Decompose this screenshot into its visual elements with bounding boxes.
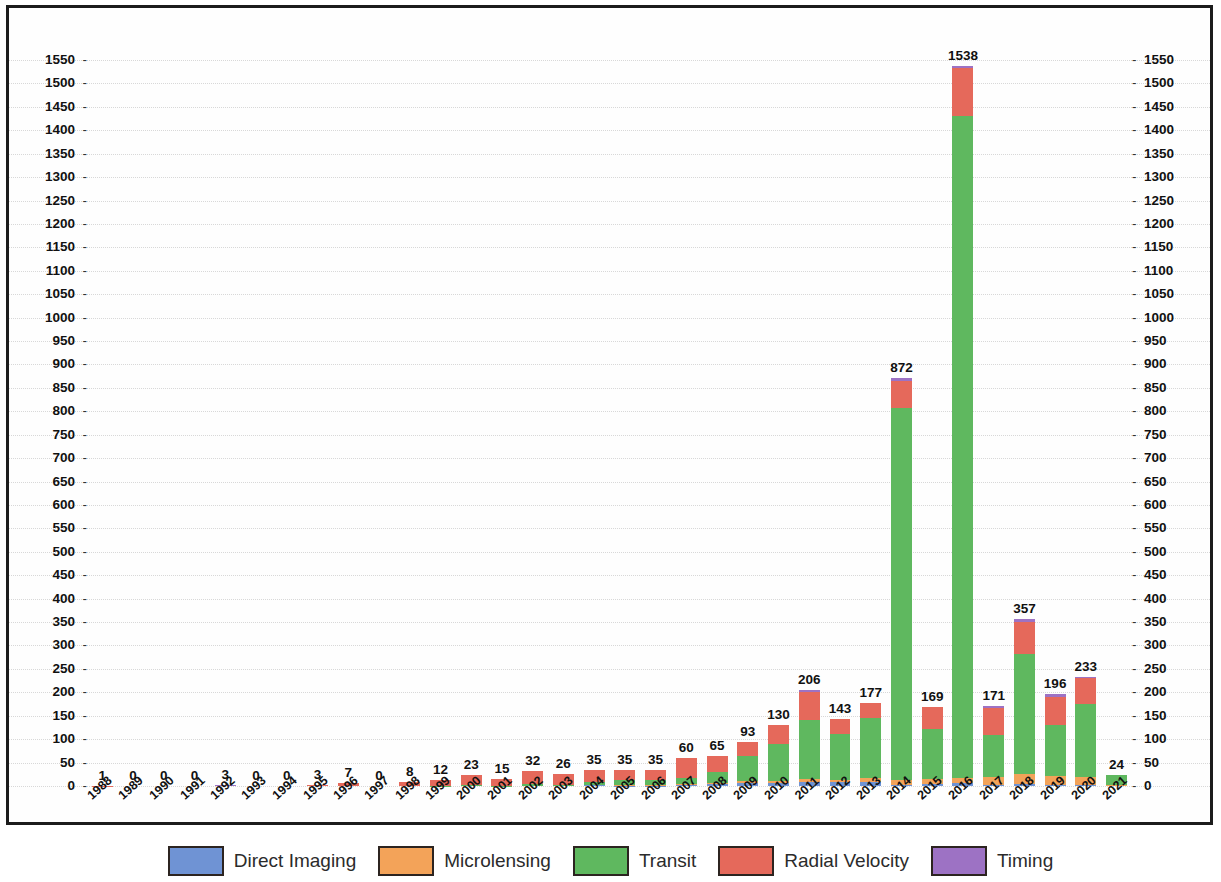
- y-axis-tick-label-right: 1100: [1144, 264, 1173, 278]
- bar-segment-radial-velocity: [1014, 622, 1035, 654]
- bar-stack[interactable]: [952, 66, 973, 786]
- bar-segment-radial-velocity: [922, 707, 943, 729]
- bar-stack[interactable]: [922, 707, 943, 786]
- bar-column[interactable]: 24: [1101, 46, 1132, 786]
- bar-segment-transit: [891, 408, 912, 780]
- bar-segment-transit: [830, 734, 851, 780]
- bar-column[interactable]: 177: [855, 46, 886, 786]
- bar-column[interactable]: 0: [271, 46, 302, 786]
- bar-column[interactable]: 143: [825, 46, 856, 786]
- y-axis-tick-label-right: 1350: [1144, 147, 1174, 161]
- x-axis-tick: 2018: [1009, 790, 1040, 836]
- y-axis-tick-label-left: 1500: [45, 76, 75, 90]
- bar-column[interactable]: 169: [917, 46, 948, 786]
- bar-stack[interactable]: [983, 706, 1004, 786]
- bar-segment-transit: [1014, 654, 1035, 774]
- x-axis-tick: 2017: [978, 790, 1009, 836]
- bar-column[interactable]: 35: [579, 46, 610, 786]
- bar-column[interactable]: 171: [978, 46, 1009, 786]
- y-axis-tick-mark-right: -: [1132, 100, 1137, 114]
- y-axis-tick-label-left: 400: [52, 592, 75, 606]
- y-axis-tick-label-left: 350: [52, 615, 75, 629]
- legend-item[interactable]: Microlensing: [378, 846, 551, 876]
- y-axis-tick-label-left: 1100: [46, 264, 75, 278]
- legend-label: Radial Velocity: [784, 850, 909, 872]
- legend-item[interactable]: Transit: [573, 846, 696, 876]
- y-axis-tick-label-right: 1500: [1144, 76, 1174, 90]
- bar-column[interactable]: 0: [148, 46, 179, 786]
- y-axis-tick-label-left: 700: [52, 451, 75, 465]
- bar-column[interactable]: 8: [394, 46, 425, 786]
- y-axis-tick-label-right: 1300: [1144, 170, 1174, 184]
- bar-column[interactable]: 35: [640, 46, 671, 786]
- y-axis-tick-label-left: 1200: [45, 217, 75, 231]
- bar-segment-transit: [983, 735, 1004, 778]
- bar-column[interactable]: 23: [456, 46, 487, 786]
- x-axis-tick: 2010: [763, 790, 794, 836]
- y-axis-right: 0-50-100-150-200-250-300-350-400-450-500…: [1144, 8, 1206, 822]
- bar-column[interactable]: 872: [886, 46, 917, 786]
- y-axis-tick-label-left: 850: [52, 381, 75, 395]
- y-axis-tick-mark-right: -: [1132, 264, 1137, 278]
- bar-column[interactable]: 60: [671, 46, 702, 786]
- bar-stack[interactable]: [860, 703, 881, 786]
- legend-label: Direct Imaging: [234, 850, 357, 872]
- y-axis-tick-mark-right: -: [1132, 428, 1137, 442]
- x-axis-tick: 1997: [364, 790, 395, 836]
- bar-stack[interactable]: [891, 378, 912, 786]
- bar-column[interactable]: 0: [241, 46, 272, 786]
- bar-column[interactable]: 0: [118, 46, 149, 786]
- bar-column[interactable]: 1: [87, 46, 118, 786]
- y-axis-tick-label-right: 200: [1144, 685, 1167, 699]
- bar-column[interactable]: 233: [1071, 46, 1102, 786]
- y-axis-tick-mark-right: -: [1132, 123, 1137, 137]
- y-axis-tick-label-left: 950: [52, 334, 75, 348]
- y-axis-tick-mark-right: -: [1132, 545, 1137, 559]
- bar-column[interactable]: 65: [702, 46, 733, 786]
- bar-column[interactable]: 0: [364, 46, 395, 786]
- y-axis-tick-label-left: 200: [52, 685, 75, 699]
- y-axis-tick-mark-right: -: [1132, 592, 1137, 606]
- y-axis-tick-label-right: 1150: [1144, 240, 1173, 254]
- y-axis-tick-mark-right: -: [1132, 404, 1137, 418]
- bar-stack[interactable]: [1014, 619, 1035, 786]
- y-axis-tick-mark-right: -: [1132, 779, 1137, 793]
- y-axis-tick-mark-right: -: [1132, 147, 1137, 161]
- bar-column[interactable]: 12: [425, 46, 456, 786]
- bar-column[interactable]: 7: [333, 46, 364, 786]
- bar-column[interactable]: 26: [548, 46, 579, 786]
- bar-column[interactable]: 357: [1009, 46, 1040, 786]
- bar-column[interactable]: 15: [487, 46, 518, 786]
- bar-segment-radial-velocity: [830, 719, 851, 734]
- y-axis-tick-mark-right: -: [1132, 357, 1137, 371]
- y-axis-tick-label-left: 1450: [45, 100, 75, 114]
- y-axis-tick-label-left: 1300: [45, 170, 75, 184]
- bar-column[interactable]: 3: [210, 46, 241, 786]
- bar-segment-radial-velocity: [1045, 697, 1066, 725]
- legend-item[interactable]: Timing: [931, 846, 1053, 876]
- legend-item[interactable]: Direct Imaging: [168, 846, 357, 876]
- y-axis-tick-mark-right: -: [1132, 334, 1137, 348]
- x-axis-tick: 2016: [948, 790, 979, 836]
- x-axis-tick: 2015: [917, 790, 948, 836]
- bar-column[interactable]: 0: [179, 46, 210, 786]
- bar-column[interactable]: 196: [1040, 46, 1071, 786]
- bar-segment-radial-velocity: [983, 708, 1004, 735]
- y-axis-tick-label-left: 1250: [45, 194, 75, 208]
- y-axis-tick-label-left: 250: [52, 662, 75, 676]
- bar-column[interactable]: 93: [732, 46, 763, 786]
- x-axis-tick: 1995: [302, 790, 333, 836]
- bar-column[interactable]: 32: [517, 46, 548, 786]
- y-axis-tick-mark-right: -: [1132, 662, 1137, 676]
- x-axis-tick: 2004: [579, 790, 610, 836]
- chart-legend: Direct ImagingMicrolensingTransitRadial …: [0, 840, 1221, 882]
- bar-column[interactable]: 35: [609, 46, 640, 786]
- bar-column[interactable]: 3: [302, 46, 333, 786]
- bar-stack[interactable]: [1045, 694, 1066, 786]
- y-axis-tick-mark-right: -: [1132, 170, 1137, 184]
- bar-column[interactable]: 206: [794, 46, 825, 786]
- bar-column[interactable]: 1538: [948, 46, 979, 786]
- y-axis-tick-mark-right: -: [1132, 451, 1137, 465]
- y-axis-tick-label-left: 1000: [45, 311, 75, 325]
- legend-item[interactable]: Radial Velocity: [718, 846, 909, 876]
